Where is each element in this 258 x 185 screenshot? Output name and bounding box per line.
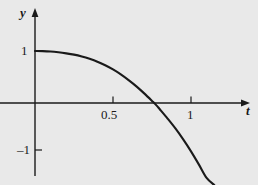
y-tick-label-minus-1: –1 bbox=[17, 143, 30, 156]
y-axis bbox=[32, 8, 39, 176]
y-axis-arrow-icon bbox=[32, 8, 39, 17]
plot-canvas bbox=[0, 0, 258, 185]
y-tick-label-1: 1 bbox=[21, 44, 28, 57]
y-axis-label: y bbox=[20, 6, 26, 19]
x-tick-label-0-5: 0.5 bbox=[101, 108, 117, 121]
figure-container: y t 1 –1 0.5 1 bbox=[0, 0, 258, 185]
x-tick-label-1: 1 bbox=[187, 108, 194, 121]
tick-marks bbox=[35, 51, 191, 150]
x-axis-label: t bbox=[246, 104, 250, 117]
x-axis bbox=[0, 100, 250, 107]
caption-strip bbox=[0, 179, 258, 185]
